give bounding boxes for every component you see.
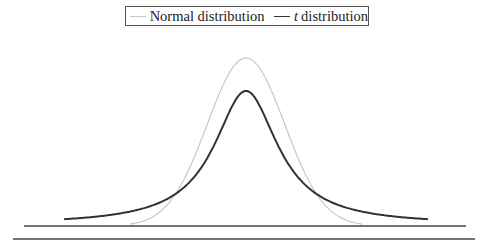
- legend-normal-label: Normal distribution: [150, 8, 265, 25]
- legend-t-label: distribution: [301, 8, 368, 25]
- t-curve: [64, 91, 428, 219]
- t-swatch: [274, 16, 290, 17]
- legend: Normal distribution t distribution: [125, 6, 369, 26]
- density-chart: [0, 0, 492, 245]
- normal-swatch: [130, 16, 146, 17]
- legend-t-italic: t: [294, 8, 298, 25]
